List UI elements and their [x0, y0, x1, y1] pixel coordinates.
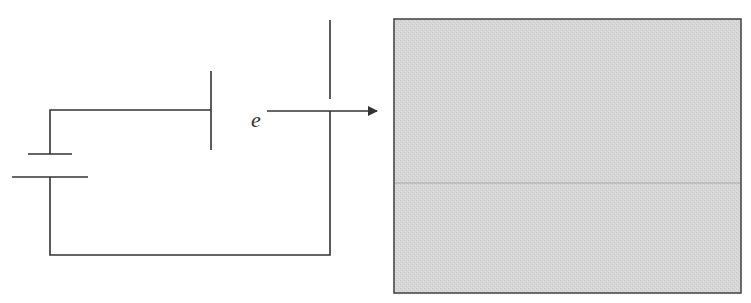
circuit-diagram: e — [0, 0, 751, 303]
wire-top-left — [50, 110, 211, 154]
screen-panel — [394, 19, 741, 293]
battery — [12, 154, 88, 177]
circuit-wires — [50, 110, 330, 255]
electron-label: e — [251, 107, 261, 132]
screen — [394, 19, 741, 293]
wire-bottom — [50, 111, 330, 255]
